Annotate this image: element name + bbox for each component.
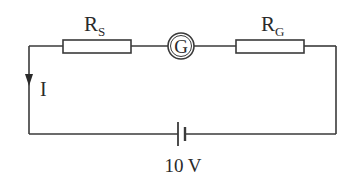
battery: 10 V: [164, 122, 201, 176]
galvanometer-label: G: [174, 36, 188, 57]
resistor-rg-label: RG: [261, 12, 284, 39]
circuit-diagram: RS G RG 10 V I: [0, 0, 358, 189]
battery-voltage-label: 10 V: [164, 155, 201, 176]
resistor-rs-label: RS: [84, 12, 105, 39]
current-label: I: [40, 78, 47, 100]
resistor-rg: RG: [236, 12, 304, 53]
current-arrow-icon: [25, 74, 33, 86]
resistor-rs: RS: [63, 12, 131, 53]
galvanometer: G: [168, 33, 194, 59]
